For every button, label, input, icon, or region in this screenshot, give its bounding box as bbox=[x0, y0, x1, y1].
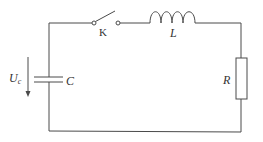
voltage-arrow bbox=[26, 57, 31, 97]
voltage-label: Uc bbox=[9, 71, 22, 86]
circuit-diagram: K L C R Uc bbox=[0, 0, 263, 142]
switch-k bbox=[92, 11, 120, 25]
switch-label: K bbox=[99, 26, 107, 38]
capacitor-c bbox=[34, 77, 63, 82]
voltage-subscript: c bbox=[18, 77, 22, 86]
inductor-label: L bbox=[169, 26, 177, 40]
resistor-label: R bbox=[222, 73, 231, 87]
capacitor-label: C bbox=[66, 74, 75, 88]
circuit-wires bbox=[49, 23, 241, 132]
inductor-l bbox=[150, 12, 195, 23]
resistor-r bbox=[236, 58, 247, 99]
